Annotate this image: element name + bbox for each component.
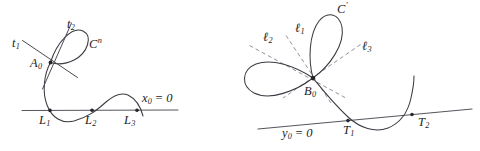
right-point-T2-label: T2: [418, 116, 429, 129]
right-tangent-l2: [250, 46, 346, 98]
right-tangent-l2-label: ℓ2: [263, 31, 272, 44]
left-point-L3-label: L3: [124, 114, 135, 127]
right-curve-branch: [313, 76, 414, 130]
left-curve-label: Cn: [89, 38, 101, 51]
left-tangent-t2-label: t2: [67, 18, 75, 31]
right-node-B0-dot: [311, 76, 316, 81]
left-point-L3-dot: [135, 108, 139, 112]
right-node-B0-label: B0: [304, 85, 316, 98]
left-node-A0-label: A0: [30, 57, 42, 70]
right-tangent-l1-label: ℓ1: [295, 22, 304, 35]
left-axis-label: x0 = 0: [142, 92, 173, 105]
left-point-L1-label: L1: [39, 114, 50, 127]
right-point-T1-label: T1: [343, 124, 354, 137]
right-axis-label: y0 = 0: [282, 127, 313, 140]
right-curve-upper-petal: [310, 15, 342, 78]
right-axis-y0: [258, 109, 472, 129]
right-curve-left-petal: [244, 62, 313, 96]
right-curve-label: C′: [337, 3, 347, 16]
left-tangent-t2: [43, 23, 72, 89]
left-axis-x0: [22, 110, 178, 111]
left-point-L2-dot: [90, 109, 94, 113]
right-point-T1-dot: [346, 119, 350, 123]
left-point-L2-label: L2: [85, 114, 96, 127]
left-tangent-t1-label: t1: [12, 37, 20, 50]
right-point-T2-dot: [410, 113, 414, 117]
left-node-A0-dot: [49, 61, 53, 65]
right-diagram-group: [244, 15, 472, 130]
left-point-L1-dot: [48, 109, 52, 113]
right-tangent-l3-label: ℓ3: [362, 40, 371, 53]
figure-canvas: t1 t2 A0 Cn x0 = 0 L1 L2 L3 C′ ℓ1 ℓ2 ℓ3 …: [0, 0, 480, 151]
